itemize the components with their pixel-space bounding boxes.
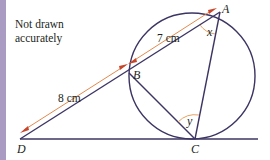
- point-label-d: D: [16, 142, 26, 156]
- point-label-a: A: [221, 2, 230, 16]
- point-label-b: B: [133, 68, 141, 82]
- geometry-diagram: A B C D x y 7 cm 8 cm: [0, 0, 270, 160]
- point-label-c: C: [191, 142, 200, 156]
- chord-bc: [129, 73, 195, 139]
- measurement-label-ab: 7 cm: [157, 32, 180, 44]
- measurement-label-bd: 8 cm: [58, 92, 81, 104]
- angle-label-x: x: [206, 25, 213, 39]
- angle-label-y: y: [186, 114, 193, 128]
